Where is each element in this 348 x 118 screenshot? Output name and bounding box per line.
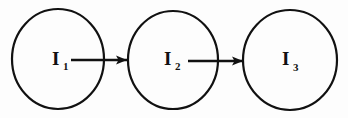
node-label-2: I	[164, 48, 171, 69]
diagram-svg: I 1 I 2 I 3	[0, 0, 348, 118]
node-group-3: I 3	[243, 10, 337, 110]
node-circle-3	[243, 10, 337, 110]
arrow-group-2	[188, 56, 243, 65]
node-label-2-subscript: 2	[175, 60, 181, 72]
node-label-3: I	[282, 48, 289, 69]
diagram-canvas: I 1 I 2 I 3	[0, 0, 348, 118]
arrow-group-1	[71, 55, 127, 64]
node-label-1-subscript: 1	[63, 60, 69, 72]
node-label-3-subscript: 3	[293, 61, 299, 73]
node-label-1: I	[52, 48, 59, 69]
